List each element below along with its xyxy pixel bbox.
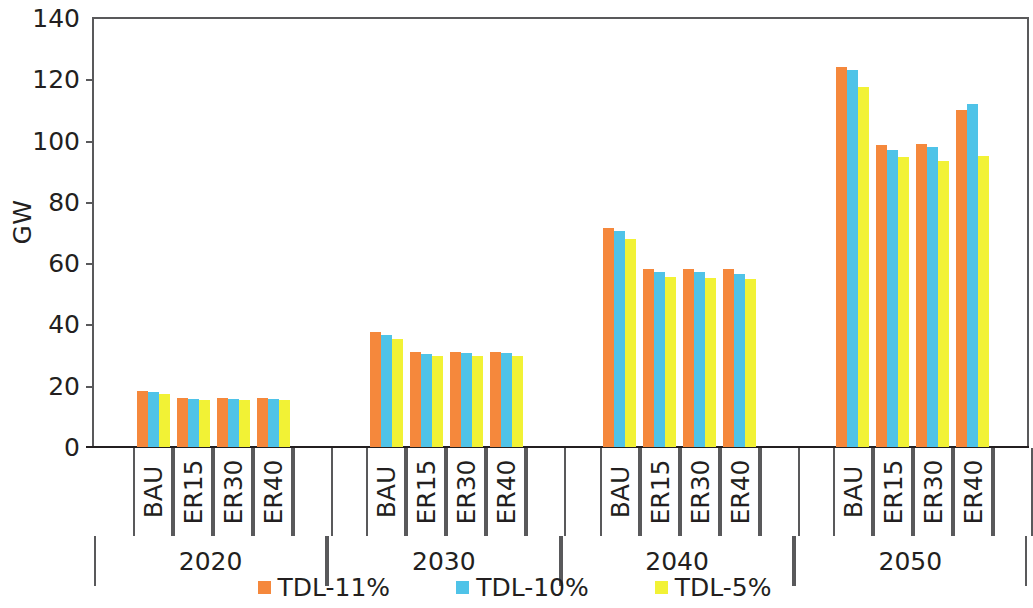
x-category-cell: ER30: [913, 448, 953, 536]
legend-item: TDL-5%: [655, 575, 772, 600]
x-category-cell: ER15: [173, 448, 213, 536]
x-category-label: ER40: [725, 460, 754, 525]
y-tick-mark: [86, 202, 93, 204]
bar-cluster: [133, 18, 173, 447]
x-category-label: ER30: [219, 460, 248, 525]
x-category-label: ER40: [958, 460, 987, 525]
bar: [461, 353, 472, 447]
bar: [159, 394, 170, 447]
x-category-cell: BAU: [133, 448, 173, 536]
bar-cluster: [913, 18, 953, 447]
bar: [967, 104, 978, 447]
bar: [847, 70, 858, 447]
bar: [392, 339, 403, 447]
bar-cluster: [366, 18, 406, 447]
x-category-label: ER30: [452, 460, 481, 525]
legend-swatch-icon: [258, 581, 271, 594]
legend-swatch-icon: [456, 581, 469, 594]
bar: [978, 156, 989, 447]
legend-item: TDL-10%: [456, 575, 589, 600]
legend-item: TDL-11%: [258, 575, 391, 600]
bar: [239, 400, 250, 447]
bar: [421, 354, 432, 447]
bar: [956, 110, 967, 447]
bar: [228, 399, 239, 447]
bar-cluster: [446, 18, 486, 447]
bar: [370, 332, 381, 447]
bar-cluster: [873, 18, 913, 447]
bar: [683, 269, 694, 447]
legend-label: TDL-10%: [476, 575, 589, 600]
bar: [643, 269, 654, 447]
bar-cluster: [486, 18, 526, 447]
bar-cluster: [213, 18, 253, 447]
bar: [625, 239, 636, 447]
bar: [603, 228, 614, 447]
x-axis: BAUER15ER30ER402020BAUER15ER30ER402030BA…: [0, 448, 1029, 558]
bar: [199, 400, 210, 447]
bar: [512, 356, 523, 447]
y-tick-label: 100: [18, 128, 80, 153]
bar: [836, 67, 847, 447]
x-category-label: BAU: [605, 466, 634, 519]
x-category-cell: BAU: [600, 448, 640, 536]
x-category-label: ER40: [259, 460, 288, 525]
bar-cluster: [720, 18, 760, 447]
bar: [665, 277, 676, 447]
x-category-label: ER15: [412, 460, 441, 525]
bar-cluster: [833, 18, 873, 447]
x-category-cell: ER30: [680, 448, 720, 536]
x-category-label: BAU: [838, 466, 867, 519]
y-tick-mark: [86, 141, 93, 143]
bar: [217, 398, 228, 447]
x-category-cell: ER15: [873, 448, 913, 536]
plot-right-border: [1027, 18, 1029, 447]
bar: [938, 161, 949, 448]
legend: TDL-11%TDL-10%TDL-5%: [0, 566, 1029, 608]
bar: [177, 398, 188, 447]
bar: [927, 147, 938, 447]
x-category-label: ER40: [492, 460, 521, 525]
bar: [705, 278, 716, 447]
bar-cluster: [640, 18, 680, 447]
bar: [614, 231, 625, 447]
legend-label: TDL-5%: [675, 575, 772, 600]
bar: [137, 391, 148, 447]
bar: [450, 352, 461, 447]
bar: [876, 145, 887, 447]
x-spacer-cell: [526, 448, 566, 536]
x-category-cell: BAU: [833, 448, 873, 536]
x-category-cell: ER40: [486, 448, 526, 536]
bar: [501, 353, 512, 447]
bar-cluster: [173, 18, 213, 447]
bar: [654, 272, 665, 447]
plot-area: [94, 18, 1027, 447]
bar: [723, 269, 734, 447]
bar: [472, 356, 483, 447]
bar: [279, 400, 290, 447]
bar: [268, 399, 279, 447]
y-tick-label: 20: [18, 373, 80, 398]
bar: [188, 399, 199, 447]
y-tick-label: 120: [18, 67, 80, 92]
bar: [410, 352, 421, 447]
y-tick-mark: [86, 386, 93, 388]
bar: [734, 274, 745, 447]
legend-label: TDL-11%: [278, 575, 391, 600]
x-category-cell: ER40: [953, 448, 993, 536]
x-category-cell: ER30: [446, 448, 486, 536]
bar-cluster: [253, 18, 293, 447]
bar: [257, 398, 268, 447]
bar: [490, 352, 501, 447]
bar: [432, 356, 443, 447]
bar: [148, 392, 159, 447]
x-spacer-cell: [293, 448, 333, 536]
bar-cluster: [406, 18, 446, 447]
bar: [887, 150, 898, 447]
bar-cluster: [953, 18, 993, 447]
bar: [745, 279, 756, 447]
x-category-label: ER30: [685, 460, 714, 525]
x-category-label: BAU: [139, 466, 168, 519]
x-category-cell: ER40: [720, 448, 760, 536]
